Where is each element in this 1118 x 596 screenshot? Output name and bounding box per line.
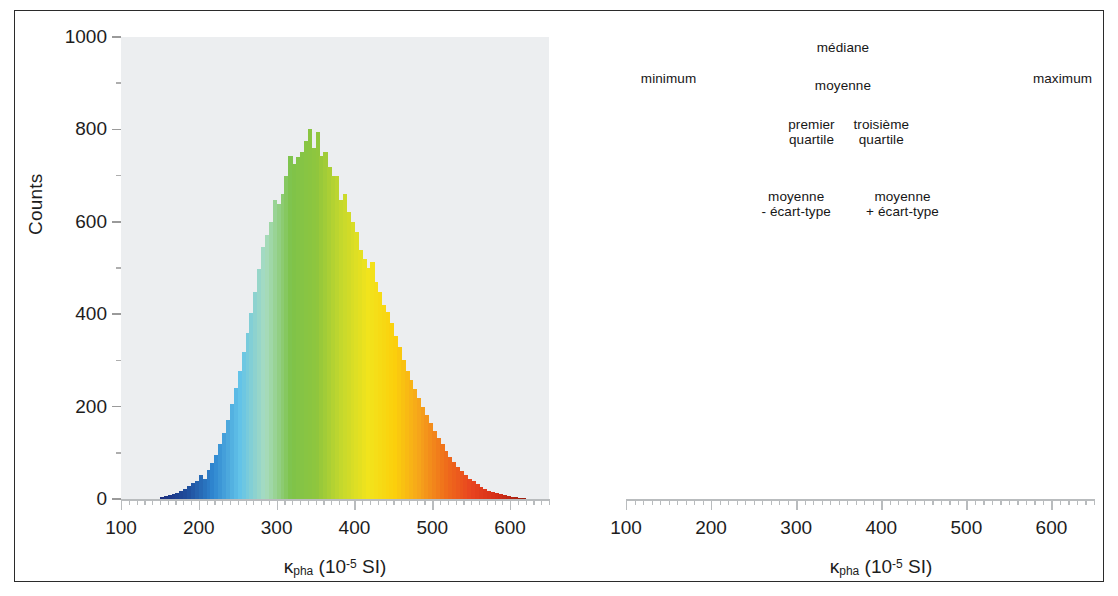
x-tick-minor	[191, 499, 192, 505]
x-tick-minor	[1026, 499, 1027, 505]
x-tick-minor	[983, 499, 984, 505]
histogram-bars-gradient	[121, 37, 549, 499]
x-tick-minor	[479, 499, 480, 505]
x-tick-minor	[424, 499, 425, 505]
x-tick-minor	[269, 499, 270, 505]
x-tick-minor	[890, 499, 891, 505]
x-tick-minor	[924, 499, 925, 505]
x-tick-minor	[1017, 499, 1018, 505]
x-tick-label: 200	[183, 517, 215, 539]
annotation-label-q1: premier quartile	[783, 114, 839, 150]
x-tick-minor	[526, 499, 527, 505]
x-tick-minor	[686, 499, 687, 505]
x-tick-minor	[238, 499, 239, 505]
x-tick-minor	[502, 499, 503, 505]
panel-right: minimummoyenne - écart-typepremier quart…	[559, 11, 1103, 581]
x-tick-minor	[694, 499, 695, 505]
x-tick-major	[432, 499, 433, 510]
x-tick-label: 200	[695, 517, 727, 539]
x-tick-minor	[839, 499, 840, 505]
x-tick-minor	[847, 499, 848, 505]
annotation-label-mean_plus_sd: moyenne + écart-type	[861, 186, 944, 222]
x-tick-minor	[1094, 499, 1095, 505]
x-tick-minor	[393, 499, 394, 505]
x-tick-label: 500	[951, 517, 983, 539]
x-tick-minor	[635, 499, 636, 505]
x-tick-minor	[339, 499, 340, 505]
x-tick-minor	[830, 499, 831, 505]
x-tick-minor	[677, 499, 678, 505]
x-tick-minor	[183, 499, 184, 505]
x-tick-major	[199, 499, 200, 510]
x-tick-minor	[864, 499, 865, 505]
y-tick-mark	[112, 498, 121, 500]
x-tick-minor	[440, 499, 441, 505]
x-tick-minor	[737, 499, 738, 505]
x-tick-minor	[300, 499, 301, 505]
x-tick-minor	[720, 499, 721, 505]
x-tick-minor	[495, 499, 496, 505]
y-tick-mark	[112, 36, 121, 38]
annotation-label-median: médiane	[812, 37, 875, 58]
x-tick-minor	[1077, 499, 1078, 505]
figure-border: 02004006008001000 Counts 100200300400500…	[14, 10, 1104, 582]
x-tick-minor	[941, 499, 942, 505]
x-axis-line	[626, 499, 1094, 501]
annotation-label-q3: troisième quartile	[848, 114, 914, 150]
x-tick-minor	[932, 499, 933, 505]
y-tick-label: 400	[35, 303, 107, 325]
x-tick-label: 300	[261, 517, 293, 539]
x-tick-major	[277, 499, 278, 510]
x-tick-minor	[487, 499, 488, 505]
x-tick-major	[354, 499, 355, 510]
x-tick-minor	[1000, 499, 1001, 505]
x-tick-minor	[144, 499, 145, 505]
x-tick-minor	[378, 499, 379, 505]
x-axis-label-left: κpha (10-5 SI)	[284, 556, 387, 578]
x-tick-major	[121, 499, 122, 510]
x-tick-minor	[762, 499, 763, 505]
x-tick-minor	[1043, 499, 1044, 505]
x-tick-minor	[771, 499, 772, 505]
x-tick-minor	[222, 499, 223, 505]
x-tick-label: 100	[105, 517, 137, 539]
x-tick-major	[626, 499, 627, 510]
x-tick-minor	[456, 499, 457, 505]
x-tick-minor	[975, 499, 976, 505]
x-tick-minor	[1068, 499, 1069, 505]
y-tick-label: 1000	[35, 26, 107, 48]
x-tick-minor	[284, 499, 285, 505]
x-tick-minor	[949, 499, 950, 505]
plot-area-left	[121, 37, 549, 499]
x-tick-minor	[873, 499, 874, 505]
x-tick-minor	[1060, 499, 1061, 505]
x-tick-minor	[261, 499, 262, 505]
x-tick-major	[1051, 499, 1052, 510]
x-tick-minor	[175, 499, 176, 505]
y-axis-label: Counts	[25, 174, 47, 235]
y-tick-label: 200	[35, 396, 107, 418]
x-tick-minor	[362, 499, 363, 505]
x-tick-major	[711, 499, 712, 510]
x-tick-minor	[463, 499, 464, 505]
x-tick-minor	[907, 499, 908, 505]
x-tick-minor	[409, 499, 410, 505]
x-tick-minor	[316, 499, 317, 505]
x-tick-minor	[323, 499, 324, 505]
panel-left: 02004006008001000 Counts 100200300400500…	[15, 11, 559, 581]
x-tick-minor	[331, 499, 332, 505]
x-tick-minor	[728, 499, 729, 505]
x-tick-minor	[541, 499, 542, 505]
x-tick-label: 600	[1036, 517, 1068, 539]
x-tick-label: 500	[416, 517, 448, 539]
x-tick-minor	[129, 499, 130, 505]
x-tick-minor	[754, 499, 755, 505]
x-tick-minor	[471, 499, 472, 505]
x-tick-major	[796, 499, 797, 510]
x-axis-line	[121, 499, 549, 501]
y-tick-mark	[112, 221, 121, 223]
y-tick-mark	[112, 129, 121, 131]
x-tick-minor	[1085, 499, 1086, 505]
x-tick-minor	[643, 499, 644, 505]
x-tick-minor	[805, 499, 806, 505]
